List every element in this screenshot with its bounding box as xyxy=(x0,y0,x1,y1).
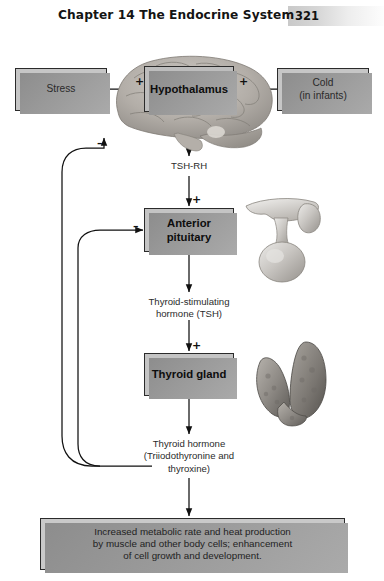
node-effects-label: Increased metabolic rate and heat produc… xyxy=(93,526,292,563)
plus-sign-stress-input: + xyxy=(135,76,144,87)
minus-sign-hypothalamus-feedback: – xyxy=(97,138,103,149)
node-effects-label-line3: of cell growth and development. xyxy=(123,550,261,561)
node-thyroid-gland-label: Thyroid gland xyxy=(152,367,227,381)
node-cold-label-line1: Cold xyxy=(313,77,334,88)
flow-label-thyroid-hormone-line2: (Triiodothyronine and xyxy=(144,450,234,461)
node-anterior-pituitary-label: Anterior pituitary xyxy=(167,216,212,244)
flow-label-tsh-rh-text: TSH-RH xyxy=(171,160,207,171)
node-anterior-pituitary-label-line2: pituitary xyxy=(167,231,212,243)
flow-label-thyroid-hormone: Thyroid hormone (Triiodothyronine and th… xyxy=(104,438,274,475)
thyroid-gland-illustration xyxy=(246,336,334,432)
node-anterior-pituitary-label-line1: Anterior xyxy=(167,217,211,229)
flow-label-thyroid-hormone-line1: Thyroid hormone xyxy=(153,438,226,449)
node-thyroid-gland[interactable]: Thyroid gland xyxy=(144,353,234,396)
flow-label-thyroid-hormone-line3: thyroxine) xyxy=(168,463,210,474)
flow-label-tsh-line1: Thyroid-stimulating xyxy=(148,296,229,307)
node-cold[interactable]: Cold (in infants) xyxy=(277,68,369,111)
node-effects-label-line2: by muscle and other body cells; enhancem… xyxy=(93,538,292,549)
endocrine-flow-diagram: Stress Cold (in infants) Hypothalamus An… xyxy=(0,0,384,581)
node-anterior-pituitary[interactable]: Anterior pituitary xyxy=(144,208,234,252)
plus-sign-cold-input: + xyxy=(239,76,248,87)
node-hypothalamus-label: Hypothalamus xyxy=(150,82,228,96)
node-effects-label-line1: Increased metabolic rate and heat produc… xyxy=(94,526,291,537)
node-cold-label-line2: (in infants) xyxy=(299,90,347,101)
node-hypothalamus[interactable]: Hypothalamus xyxy=(144,66,234,112)
plus-sign-pituitary-input: + xyxy=(192,194,201,205)
minus-sign-pituitary-feedback: – xyxy=(133,221,139,232)
flow-label-tsh: Thyroid-stimulating hormone (TSH) xyxy=(114,296,264,321)
pituitary-gland-illustration xyxy=(238,190,330,285)
node-stress[interactable]: Stress xyxy=(15,68,107,111)
flow-label-tsh-line2: hormone (TSH) xyxy=(156,308,222,319)
node-stress-label: Stress xyxy=(47,83,76,96)
flow-label-tsh-rh: TSH-RH xyxy=(139,160,239,172)
node-effects[interactable]: Increased metabolic rate and heat produc… xyxy=(40,518,345,570)
node-cold-label: Cold (in infants) xyxy=(299,77,347,103)
plus-sign-thyroid-input: + xyxy=(192,340,201,351)
